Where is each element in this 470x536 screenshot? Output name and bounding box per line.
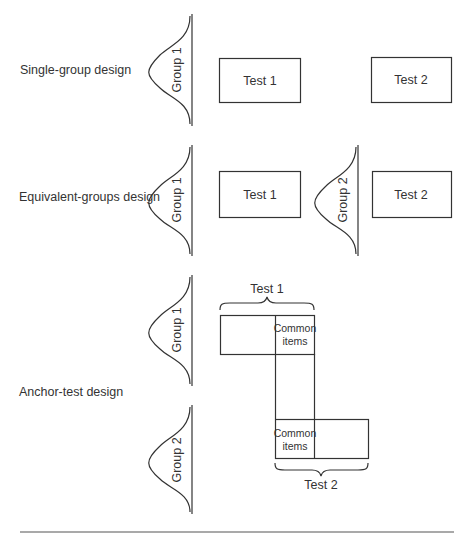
- anchor-bottom-common-items-line1: Common: [274, 427, 317, 439]
- anchor-test1-label: Test 1: [250, 282, 283, 296]
- equivalent-groups-group2-label: Group 2: [336, 177, 350, 222]
- equivalent-groups-group1-label: Group 1: [170, 177, 184, 222]
- anchor-test2-box: [276, 420, 369, 459]
- test2-brace: [275, 463, 368, 476]
- anchor-test2-label: Test 2: [304, 478, 337, 492]
- anchor-top-common-items-line1: Common: [274, 322, 317, 334]
- equating-designs-diagram: Group 1 Group 1 Group 2 Group 1 Group 2 …: [0, 0, 470, 536]
- anchor-bottom-common-items-line2: items: [282, 440, 307, 452]
- single-group-test2-label: Test 2: [394, 73, 427, 87]
- anchor-test-group2-label: Group 2: [170, 437, 184, 482]
- test1-brace: [220, 297, 314, 310]
- anchor-top-common-items-line2: items: [282, 335, 307, 347]
- single-group-group1-label: Group 1: [170, 47, 184, 92]
- equivalent-groups-test2-label: Test 2: [394, 188, 427, 202]
- single-group-test1-label: Test 1: [243, 74, 276, 88]
- anchor-test-group1-label: Group 1: [170, 307, 184, 352]
- equivalent-groups-test1-label: Test 1: [243, 188, 276, 202]
